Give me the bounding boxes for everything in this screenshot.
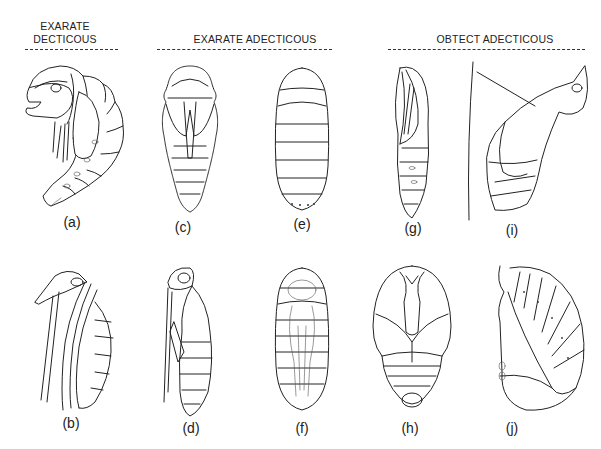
header-line2: DECTICOUS: [15, 33, 115, 46]
panel-label-a: (a): [57, 214, 87, 230]
puparium-e-drawing: [272, 66, 332, 216]
pupa-h-drawing: [370, 262, 454, 414]
pupa-c-drawing: [160, 62, 220, 217]
panel-label-c: (c): [168, 219, 198, 235]
panel-label-e: (e): [287, 216, 317, 232]
header-exarate-decticous: EXARATE DECTICOUS: [15, 20, 115, 46]
puparium-f-drawing: [272, 266, 332, 416]
divider-exarate-decticous: [25, 49, 118, 50]
pupa-d-drawing: [160, 262, 216, 420]
header-line1: EXARATE: [15, 20, 115, 33]
panel-label-f: (f): [287, 420, 317, 436]
header-obtect-adecticous: OBTECT ADECTICOUS: [395, 33, 595, 46]
panel-label-g: (g): [398, 220, 428, 236]
chrysalis-i-drawing: [465, 62, 601, 220]
header-line1: OBTECT ADECTICOUS: [395, 33, 595, 46]
divider-obtect-adecticous: [388, 49, 585, 50]
panel-label-d: (d): [176, 420, 206, 436]
panel-label-b: (b): [56, 415, 86, 431]
header-line1: EXARATE ADECTICOUS: [155, 33, 355, 46]
pupa-g-drawing: [390, 64, 440, 224]
pupa-b-drawing: [25, 262, 115, 414]
panel-label-h: (h): [395, 420, 425, 436]
panel-label-i: (i): [497, 222, 527, 238]
header-exarate-adecticous: EXARATE ADECTICOUS: [155, 33, 355, 46]
pupa-a-drawing: [15, 62, 125, 212]
panel-label-j: (j): [497, 420, 527, 436]
pupa-j-drawing: [490, 262, 590, 414]
divider-exarate-adecticous: [157, 49, 332, 50]
